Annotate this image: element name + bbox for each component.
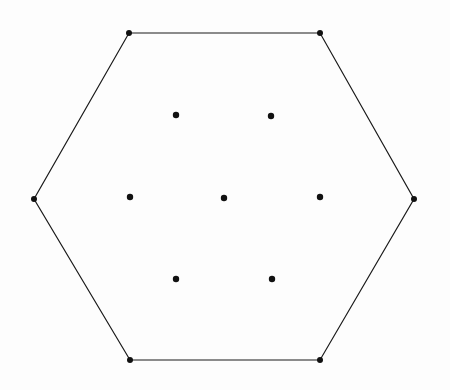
vertex-dot-bottom-left bbox=[127, 357, 133, 363]
interior-dot-upper-left bbox=[173, 112, 179, 118]
interior-dot-middle-left bbox=[127, 194, 133, 200]
vertex-dot-right bbox=[411, 196, 417, 202]
interior-dot-lower-left bbox=[173, 276, 179, 282]
interior-dot-center bbox=[221, 195, 227, 201]
interior-dot-middle-right bbox=[317, 194, 323, 200]
vertex-dot-bottom-right bbox=[317, 357, 323, 363]
vertex-dot-top-left bbox=[126, 30, 132, 36]
interior-dot-lower-right bbox=[269, 276, 275, 282]
vertex-dot-top-right bbox=[317, 30, 323, 36]
figure-canvas bbox=[0, 0, 450, 390]
vertex-dot-left bbox=[31, 196, 37, 202]
hexagon-figure bbox=[0, 0, 450, 390]
interior-dot-upper-right bbox=[268, 113, 274, 119]
